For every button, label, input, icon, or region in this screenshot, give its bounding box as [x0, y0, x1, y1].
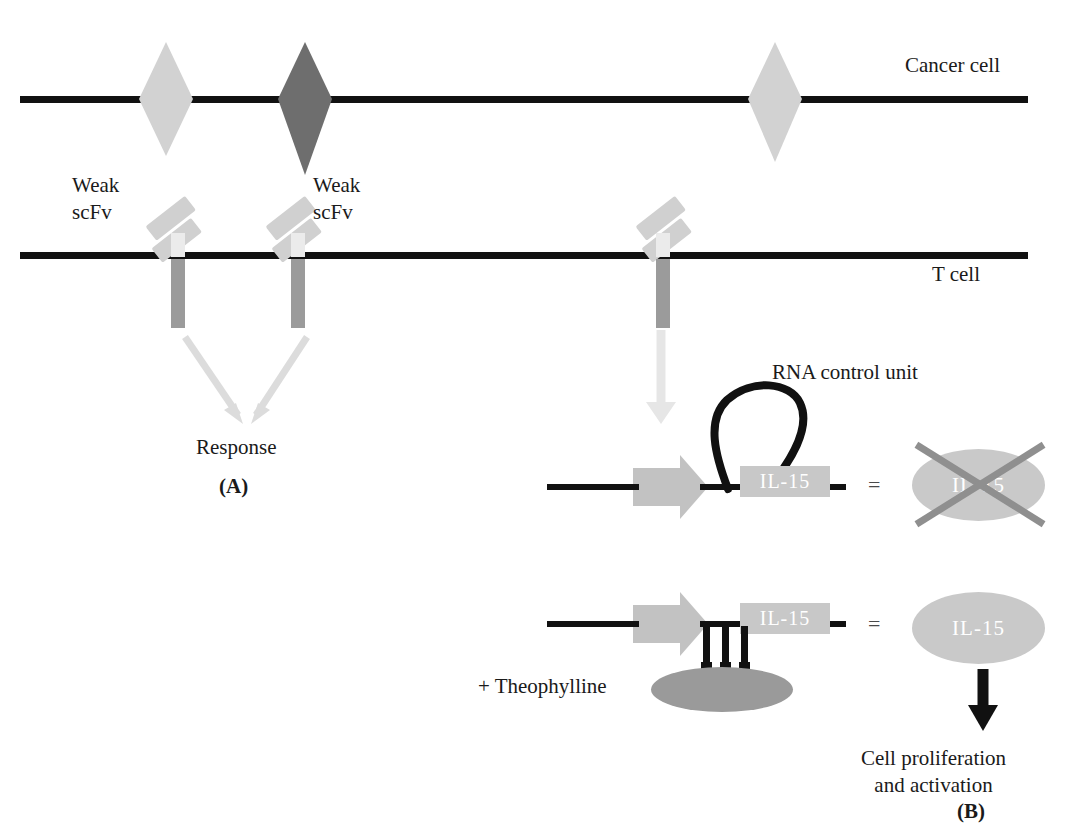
aptamer-tick-1 — [703, 626, 710, 663]
weak-scfv-label-middle: Weak scFv — [313, 172, 360, 226]
promoter-arrow-off — [633, 455, 708, 519]
car-neck-right — [656, 233, 670, 257]
antigen-layer — [0, 0, 1077, 831]
promoter-arrow-on — [633, 592, 708, 656]
response-arrow-left — [185, 337, 243, 424]
car-tail-left — [171, 259, 185, 328]
il15-gene-box-on: IL-15 — [740, 603, 830, 634]
proliferation-arrow — [968, 669, 998, 731]
vector-layer — [0, 0, 1077, 831]
weak-scfv-label-left: Weak scFv — [72, 172, 119, 226]
panel-b-label: (B) — [957, 798, 985, 825]
theophylline-label: + Theophylline — [478, 673, 607, 700]
car-neck-left — [171, 233, 185, 257]
car-tail-mid — [291, 259, 305, 328]
figure-canvas: IL-15 = IL-15 IL-15 = IL-15 Cancer cell … — [0, 0, 1077, 831]
cancer-cell-label: Cancer cell — [905, 52, 1000, 79]
dna-backbone-off-left — [547, 484, 639, 490]
cell-proliferation-label: Cell proliferation and activation — [826, 745, 1041, 799]
il15-oval-on: IL-15 — [912, 592, 1045, 664]
response-arrow-right — [251, 337, 307, 424]
car-tail-right — [656, 259, 670, 328]
theophylline-ellipse — [651, 667, 793, 712]
t-cell-label: T cell — [932, 261, 980, 288]
equals-sign-on: = — [868, 613, 880, 635]
il15-gene-box-off: IL-15 — [740, 466, 830, 497]
cancer-cell-membrane — [20, 96, 1028, 103]
car-neck-mid — [291, 233, 305, 257]
aptamer-tick-2 — [722, 626, 729, 663]
rna-control-unit-label: RNA control unit — [772, 359, 918, 386]
dna-backbone-off-mid — [700, 484, 744, 490]
dna-backbone-on-left — [547, 621, 639, 627]
aptamer-tick-3 — [741, 626, 748, 663]
response-label: Response — [196, 434, 277, 461]
equals-sign-off: = — [868, 474, 880, 496]
antigen-diamond-strong — [278, 42, 332, 175]
panel-a-label: (A) — [219, 473, 248, 500]
signal-arrow-down — [646, 330, 676, 424]
